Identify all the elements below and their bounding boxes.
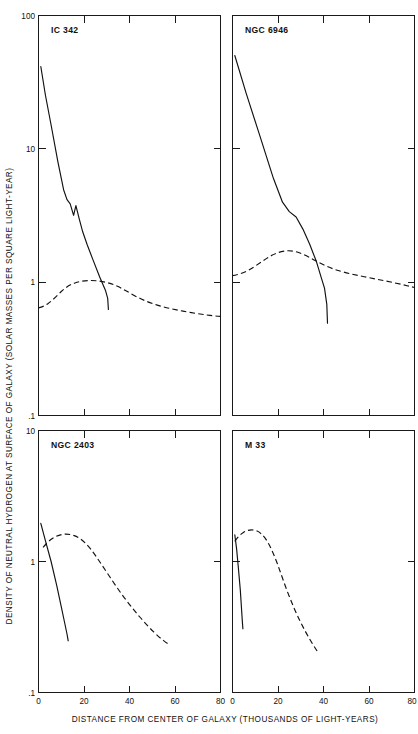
- panel-ngc-6946: NGC 6946: [233, 16, 415, 416]
- ytick-label-ic342-10: 10: [26, 145, 36, 154]
- curve-m33-total-surface-density: [235, 535, 243, 629]
- panel-ngc-2403: 10 1 .1 NGC 2403: [26, 427, 221, 698]
- ytick-label-ngc2403-10: 10: [26, 427, 36, 436]
- xtick-label-left-0: 0: [36, 697, 41, 706]
- panel-ic-342: 100 10 1 .1 IC 342: [21, 12, 220, 421]
- curve-ngc2403-total-surface-density: [41, 523, 68, 640]
- figure-root: DENSITY OF NEUTRAL HYDROGEN AT SURFACE O…: [0, 0, 418, 734]
- ytick-label-ngc2403-1: 1: [30, 558, 35, 567]
- ytick-label-ic342-100: 100: [21, 12, 35, 21]
- panel-title-ngc-6946: NGC 6946: [245, 25, 288, 35]
- xtick-label-right-40: 40: [319, 697, 329, 706]
- xtick-label-left-20: 20: [79, 697, 89, 706]
- curve-ngc2403-neutral-hydrogen: [43, 534, 168, 644]
- panel-title-m33: M 33: [245, 440, 266, 450]
- y-axis-title: DENSITY OF NEUTRAL HYDROGEN AT SURFACE O…: [5, 168, 14, 625]
- curve-ic342-total-surface-density: [41, 67, 109, 310]
- curve-m33-neutral-hydrogen: [235, 530, 317, 651]
- xtick-label-right-60: 60: [364, 697, 374, 706]
- curve-ic342-neutral-hydrogen: [39, 280, 221, 316]
- xtick-label-right-80: 80: [407, 697, 417, 706]
- ytick-label-ic342-01: .1: [28, 412, 35, 421]
- x-axis-title: DISTANCE FROM CENTER OF GALAXY (THOUSAND…: [72, 715, 378, 724]
- ytick-label-ngc2403-01: .1: [28, 689, 35, 698]
- xtick-label-right-20: 20: [273, 697, 283, 706]
- xtick-label-right-0: 0: [230, 697, 235, 706]
- curve-ngc6946-neutral-hydrogen: [233, 251, 415, 288]
- xtick-label-left-40: 40: [125, 697, 135, 706]
- panel-m33: M 33: [233, 431, 415, 693]
- panel-title-ngc-2403: NGC 2403: [51, 440, 94, 450]
- xtick-label-left-60: 60: [170, 697, 180, 706]
- panel-title-ic-342: IC 342: [51, 25, 78, 35]
- ytick-label-ic342-1: 1: [30, 278, 35, 287]
- curve-ngc6946-total-surface-density: [235, 56, 328, 324]
- xtick-label-left-80: 80: [216, 697, 226, 706]
- multi-panel-chart: DENSITY OF NEUTRAL HYDROGEN AT SURFACE O…: [0, 0, 418, 734]
